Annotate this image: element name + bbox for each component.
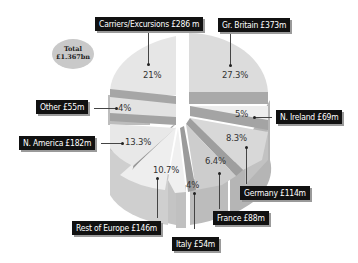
label-roe: Rest of Europe £146m xyxy=(72,221,161,235)
leader-na xyxy=(101,143,123,144)
leader-de xyxy=(246,147,247,184)
label-gb: Gr. Britain £373m xyxy=(218,18,290,32)
dot-gb xyxy=(229,64,232,67)
slice-gb xyxy=(189,33,268,92)
slice-carriers xyxy=(110,36,176,95)
label-carriers: Carriers/Excursions £286 m xyxy=(95,17,203,31)
percent-de: 8.3% xyxy=(226,133,247,143)
leader-it xyxy=(194,193,195,229)
leader-ni xyxy=(254,117,272,118)
leader-gb xyxy=(230,30,231,66)
percent-fr: 6.4% xyxy=(205,156,226,166)
percent-carriers: 21% xyxy=(143,70,161,80)
percent-other: 4% xyxy=(118,103,131,113)
dot-it xyxy=(193,192,196,195)
total-badge: Total £1.367bn xyxy=(52,39,94,69)
label-it: Italy £54m xyxy=(172,237,219,251)
label-fr: France £88m xyxy=(213,211,269,225)
leader-other xyxy=(94,108,116,109)
dot-de xyxy=(245,146,248,149)
dot-fr xyxy=(218,172,221,175)
percent-na: 13.3% xyxy=(125,137,151,147)
percent-gb: 27.3% xyxy=(222,70,248,80)
label-na: N. America £182m xyxy=(19,136,95,150)
label-other: Other £55m xyxy=(36,100,88,114)
leader-roe xyxy=(157,178,158,218)
total-line2: £1.367bn xyxy=(52,54,94,62)
dot-carriers xyxy=(147,63,150,66)
percent-it: 4% xyxy=(186,180,199,190)
dot-roe xyxy=(156,177,159,180)
label-de: Germany £114m xyxy=(240,186,310,200)
dot-other xyxy=(115,107,118,110)
percent-ni: 5% xyxy=(235,109,248,119)
pie-chart xyxy=(0,0,358,263)
leader-carriers xyxy=(148,30,149,65)
percent-roe: 10.7% xyxy=(153,165,179,175)
leader-fr xyxy=(219,173,220,209)
label-ni: N. Ireland £69m xyxy=(276,110,342,124)
dot-ni xyxy=(253,116,256,119)
dot-na xyxy=(121,142,124,145)
